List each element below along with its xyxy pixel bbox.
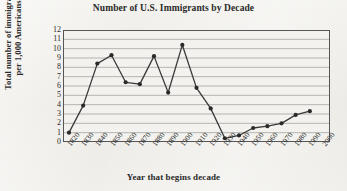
chart-title: Number of U.S. Immigrants by Decade <box>0 3 347 13</box>
data-point <box>209 106 213 110</box>
data-point <box>138 82 142 86</box>
data-point <box>124 80 128 84</box>
y-axis-tick-label: 1 <box>57 129 61 137</box>
plot-area <box>63 30 330 142</box>
y-axis-tick-label: 12 <box>53 26 61 34</box>
y-axis-tick-label: 8 <box>57 63 61 71</box>
y-axis-tick-label: 7 <box>57 73 61 81</box>
data-point <box>194 86 198 90</box>
data-point <box>265 124 269 128</box>
y-axis-tick-label: 3 <box>57 110 61 118</box>
x-axis-tick-labels: 1820183018401850186018701880189019001910… <box>63 143 330 171</box>
x-axis-title: Year that begins decade <box>0 172 347 182</box>
y-axis-tick-label: 11 <box>53 35 61 43</box>
y-axis-tick-label: 0 <box>57 138 61 146</box>
y-axis-tick-labels: 0123456789101112 <box>46 24 61 148</box>
data-point <box>308 109 312 113</box>
data-point <box>109 53 113 57</box>
y-axis-title-line-1: Total number of immigrants <box>3 0 13 97</box>
data-point <box>152 54 156 58</box>
data-point <box>251 126 255 130</box>
y-axis-tick-label: 5 <box>57 91 61 99</box>
immigration-line-chart: Number of U.S. Immigrants by Decade Tota… <box>0 0 347 191</box>
data-point <box>166 90 170 94</box>
data-point <box>180 43 184 47</box>
y-axis-tick-label: 10 <box>53 45 61 53</box>
y-axis-title-line-2: per 1,000 Americans <box>13 0 23 97</box>
data-point <box>95 62 99 66</box>
y-axis-tick-label: 9 <box>57 54 61 62</box>
y-axis-title: Total number of immigrants per 1,000 Ame… <box>3 0 23 97</box>
y-axis-tick-label: 6 <box>57 82 61 90</box>
data-point <box>279 121 283 125</box>
y-axis-tick-label: 2 <box>57 119 61 127</box>
y-axis-tick-label: 4 <box>57 101 61 109</box>
data-point <box>294 113 298 117</box>
data-point <box>81 104 85 108</box>
plot-svg <box>63 30 330 142</box>
